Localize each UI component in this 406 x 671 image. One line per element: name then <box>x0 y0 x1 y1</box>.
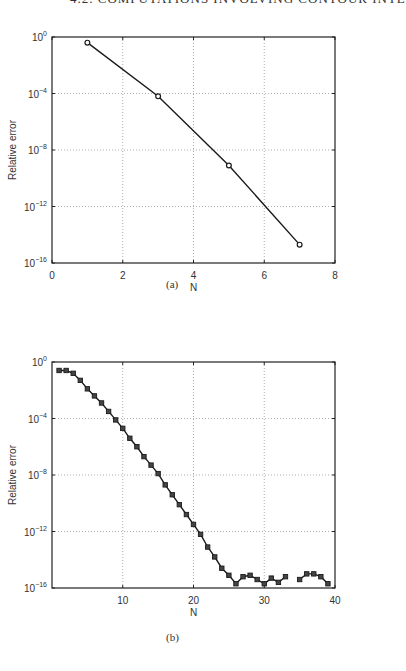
gridlines <box>52 37 335 263</box>
data-point-square <box>113 418 117 422</box>
data-point-circle <box>226 163 231 168</box>
data-point-square <box>156 471 160 475</box>
data-point-square <box>57 368 61 372</box>
data-point-square <box>163 483 167 487</box>
data-point-square <box>177 502 181 506</box>
x-tick-label: 10 <box>117 595 129 606</box>
y-tick-label: 100 <box>32 355 47 368</box>
data-point-square <box>262 582 266 586</box>
plot-a: 0246810010−410−810−1210−16NRelative erro… <box>7 30 338 293</box>
data-point-square <box>85 387 89 391</box>
x-tick-label: 30 <box>259 595 271 606</box>
data-point-square <box>191 522 195 526</box>
data-point-square <box>170 493 174 497</box>
y-tick-label: 10−4 <box>28 412 47 425</box>
data-point-square <box>305 572 309 576</box>
data-point-circle <box>156 94 161 99</box>
x-tick-label: 4 <box>191 270 197 281</box>
data-point-circle <box>85 40 90 45</box>
data-point-square <box>184 512 188 516</box>
data-point-square <box>319 575 323 579</box>
y-tick-label: 10−8 <box>28 143 47 156</box>
data-point-square <box>297 577 301 581</box>
y-tick-label: 10−12 <box>24 200 47 213</box>
y-tick-label: 100 <box>32 30 47 43</box>
y-tick-label: 10−16 <box>24 256 47 269</box>
data-series <box>57 368 330 586</box>
data-point-square <box>227 573 231 577</box>
data-point-square <box>92 394 96 398</box>
data-point-circle <box>297 242 302 247</box>
y-tick-label: 10−8 <box>28 468 47 481</box>
data-point-square <box>234 582 238 586</box>
data-point-square <box>78 378 82 382</box>
data-point-square <box>326 582 330 586</box>
data-point-square <box>198 532 202 536</box>
data-point-square <box>128 436 132 440</box>
data-point-square <box>255 577 259 581</box>
x-tick-label: 0 <box>49 270 55 281</box>
data-point-square <box>106 409 110 413</box>
data-point-square <box>205 545 209 549</box>
data-point-square <box>142 454 146 458</box>
data-point-square <box>269 576 273 580</box>
series-line <box>59 371 285 584</box>
data-point-square <box>248 573 252 577</box>
data-point-square <box>312 572 316 576</box>
data-point-square <box>71 371 75 375</box>
x-tick-label: 2 <box>120 270 126 281</box>
y-axis-label: Relative error <box>7 119 18 180</box>
data-series <box>85 40 302 247</box>
caption-a: (a) <box>166 278 178 290</box>
data-point-square <box>64 368 68 372</box>
y-tick-label: 10−4 <box>28 87 47 100</box>
y-tick-label: 10−12 <box>24 525 47 538</box>
data-point-square <box>241 575 245 579</box>
data-point-square <box>213 555 217 559</box>
x-axis-label: N <box>190 607 197 618</box>
data-point-square <box>99 401 103 405</box>
data-point-square <box>276 580 280 584</box>
y-axis-label: Relative error <box>7 444 18 505</box>
data-point-square <box>220 566 224 570</box>
plot-b: 1020304010010−410−810−1210−16NRelative e… <box>7 355 341 618</box>
x-tick-label: 20 <box>188 595 200 606</box>
x-tick-label: 40 <box>329 595 341 606</box>
data-point-square <box>135 445 139 449</box>
data-point-square <box>121 426 125 430</box>
data-point-square <box>283 575 287 579</box>
x-tick-label: 6 <box>261 270 267 281</box>
y-tick-label: 10−16 <box>24 581 47 594</box>
data-point-square <box>149 463 153 467</box>
caption-b: (b) <box>166 631 179 643</box>
x-axis-label: N <box>190 282 197 293</box>
x-tick-label: 8 <box>332 270 338 281</box>
